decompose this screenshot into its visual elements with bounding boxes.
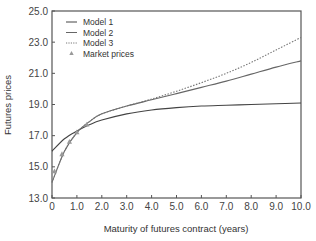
x-tick-label: 8.0 bbox=[244, 201, 258, 212]
y-tick-label: 21.0 bbox=[29, 68, 49, 79]
x-tick-label: 1.0 bbox=[70, 201, 84, 212]
legend-label: Model 1 bbox=[83, 17, 114, 27]
x-tick-label: 5.0 bbox=[170, 201, 184, 212]
x-tick-label: 10.0 bbox=[291, 201, 311, 212]
y-axis-label: Futures prices bbox=[2, 75, 13, 135]
legend-label: Model 2 bbox=[83, 28, 114, 38]
legend-label: Model 3 bbox=[83, 38, 114, 48]
legend-label: Market prices bbox=[83, 49, 134, 59]
plot-series bbox=[52, 37, 301, 182]
plot-axes: 01.02.03.04.05.06.07.08.09.010.013.015.0… bbox=[29, 6, 312, 213]
y-tick-label: 13.0 bbox=[29, 193, 49, 204]
x-axis-label: Maturity of futures contract (years) bbox=[104, 223, 249, 234]
x-tick-label: 3.0 bbox=[120, 201, 134, 212]
series-model-1 bbox=[52, 103, 301, 151]
x-tick-label: 4.0 bbox=[145, 201, 159, 212]
triangle-icon bbox=[69, 51, 73, 55]
y-tick-label: 25.0 bbox=[29, 6, 49, 17]
x-tick-label: 0 bbox=[49, 201, 55, 212]
x-tick-label: 7.0 bbox=[219, 201, 233, 212]
futures-prices-chart: 01.02.03.04.05.06.07.08.09.010.013.015.0… bbox=[0, 0, 316, 241]
x-tick-label: 2.0 bbox=[95, 201, 109, 212]
y-tick-label: 23.0 bbox=[29, 37, 49, 48]
y-tick-label: 19.0 bbox=[29, 99, 49, 110]
series-model-3 bbox=[52, 37, 301, 182]
x-tick-label: 9.0 bbox=[269, 201, 283, 212]
y-tick-label: 17.0 bbox=[29, 130, 49, 141]
x-tick-label: 6.0 bbox=[194, 201, 208, 212]
legend: Model 1Model 2Model 3Market prices bbox=[66, 17, 134, 59]
y-tick-label: 15.0 bbox=[29, 161, 49, 172]
